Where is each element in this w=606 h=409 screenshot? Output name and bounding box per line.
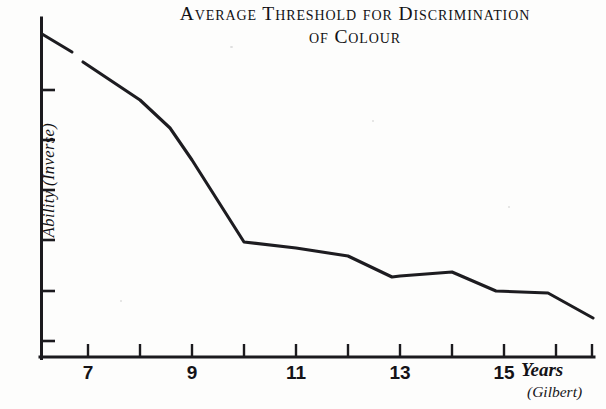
- x-tick-label-9: 9: [187, 362, 198, 384]
- x-axis-ticks: [88, 344, 592, 357]
- data-line-segment-a: [42, 34, 72, 52]
- data-series-threshold: [42, 34, 593, 318]
- x-tick-label-15: 15: [493, 362, 514, 384]
- data-line-segment-b: [83, 62, 593, 318]
- figure-canvas: Average Threshold for Discrimination of …: [0, 0, 606, 409]
- x-tick-label-7: 7: [83, 362, 94, 384]
- x-tick-label-13: 13: [389, 362, 410, 384]
- source-attribution: (Gilbert): [527, 383, 582, 401]
- y-axis-ticks: [41, 90, 55, 341]
- chart-plot: [0, 0, 606, 409]
- x-axis-label: Years: [521, 359, 563, 381]
- x-tick-label-11: 11: [286, 362, 306, 384]
